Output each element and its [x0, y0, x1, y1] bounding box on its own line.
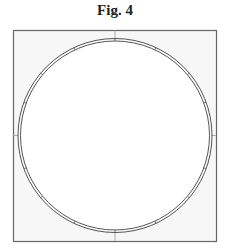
ring-diagram: [0, 0, 230, 249]
ring-fill: [19, 40, 211, 232]
